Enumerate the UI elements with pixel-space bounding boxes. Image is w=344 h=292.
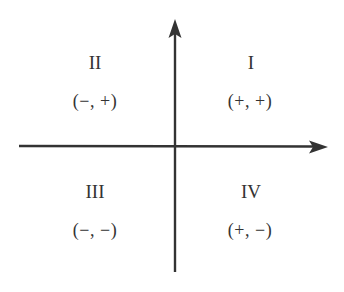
- quadrant-iii-signs: (−, −): [73, 221, 117, 239]
- x-axis: [19, 141, 328, 154]
- quadrant-iv-signs: (+, −): [228, 221, 272, 239]
- quadrant-ii-signs: (−, +): [73, 92, 117, 110]
- quadrant-ii-numeral: II: [89, 53, 102, 72]
- coordinate-axes: [0, 0, 344, 292]
- quadrant-iii-numeral: III: [86, 182, 105, 201]
- quadrant-i-signs: (+, +): [228, 92, 272, 110]
- quadrant-iv-numeral: IV: [241, 182, 261, 201]
- quadrant-diagram: II (−, +) I (+, +) III (−, −) IV (+, −): [0, 0, 344, 292]
- quadrant-i-numeral: I: [248, 53, 254, 72]
